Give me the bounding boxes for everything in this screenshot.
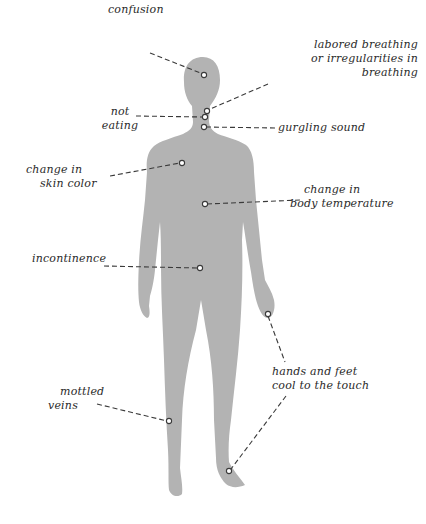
label-skin-color: change in skin color	[26, 163, 97, 191]
marker-not-eating	[202, 114, 207, 119]
body-diagram: confusion labored breathing or irregular…	[0, 0, 426, 524]
label-confusion: confusion	[108, 3, 164, 17]
label-hands-feet: hands and feet cool to the touch	[272, 365, 369, 393]
marker-skin-color	[179, 160, 184, 165]
label-incontinence: incontinence	[32, 252, 106, 266]
marker-gurgling-sound	[201, 124, 206, 129]
label-body-temperature: change in body temperature	[290, 183, 394, 211]
marker-hands	[265, 311, 270, 316]
marker-body-temperature	[202, 201, 207, 206]
marker-feet	[226, 468, 231, 473]
silhouette-shape	[138, 57, 274, 496]
label-labored-breathing: labored breathing or irregularities in b…	[268, 38, 418, 80]
label-gurgling-sound: gurgling sound	[278, 121, 365, 135]
leader-gurgling-sound	[206, 127, 276, 128]
marker-incontinence	[197, 265, 202, 270]
label-not-eating: not eating	[100, 105, 140, 133]
marker-mottled-veins	[166, 418, 171, 423]
leader-feet	[231, 396, 286, 469]
leader-mottled-veins	[97, 404, 167, 421]
marker-confusion	[201, 72, 206, 77]
marker-labored-breathing	[204, 108, 209, 113]
label-mottled-veins: mottled veins	[48, 385, 104, 413]
leader-hands	[268, 316, 285, 362]
